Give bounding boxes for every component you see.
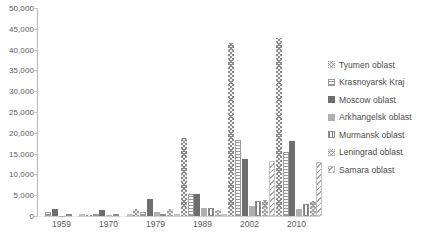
- legend-item-moscow-oblast[interactable]: Moscow oblast: [328, 91, 423, 109]
- x-axis-label-1959: 1959: [38, 219, 85, 229]
- y-axis-tick-mark: [33, 133, 37, 134]
- bar-leningrad-oblast-1989: [215, 210, 221, 216]
- legend-label: Leningrad oblast: [339, 147, 403, 157]
- bar-murmansk-oblast-2010: [303, 204, 309, 216]
- y-axis-tick-label: 30,000: [9, 87, 34, 96]
- bar-murmansk-oblast-1970: [113, 214, 119, 216]
- legend-label: Tyumen oblast: [339, 60, 395, 70]
- y-axis-tick-label: 45,000: [9, 24, 34, 33]
- bar-arkhangelsk-oblast-2002: [249, 206, 255, 216]
- y-axis-tick-mark: [33, 29, 37, 30]
- legend-item-krasnoyarsk-kraj[interactable]: Krasnoyarsk Kraj: [328, 74, 423, 92]
- bar-arkhangelsk-oblast-1989: [201, 208, 207, 216]
- y-axis-tick-label: 10,000: [9, 170, 34, 179]
- x-axis-label-1979: 1979: [132, 219, 179, 229]
- bar-group-2010: [275, 8, 322, 216]
- bar-krasnoyarsk-kraj-1970: [93, 214, 99, 216]
- y-axis-tick-label: 40,000: [9, 45, 34, 54]
- y-axis-tick-label: 5,000: [13, 191, 34, 200]
- x-axis-label-2010: 2010: [273, 219, 320, 229]
- bar-moscow-oblast-1989: [194, 194, 200, 216]
- bar-murmansk-oblast-1959: [66, 214, 72, 216]
- legend-swatch-icon: [328, 96, 335, 103]
- x-axis-labels: 195919701979198920022010: [38, 219, 320, 229]
- legend-item-arkhangelsk-oblast[interactable]: Arkhangelsk oblast: [328, 109, 423, 127]
- legend-item-samara-oblast[interactable]: Samara oblast: [328, 161, 423, 179]
- legend-item-leningrad-oblast[interactable]: Leningrad oblast: [328, 144, 423, 162]
- legend-label: Krasnoyarsk Kraj: [339, 77, 405, 87]
- bar-samara-oblast-2002: [269, 161, 275, 216]
- bar-krasnoyarsk-kraj-1959: [45, 212, 51, 216]
- bar-krasnoyarsk-kraj-2002: [235, 140, 241, 216]
- y-axis-tick-mark: [33, 91, 37, 92]
- legend-swatch-icon: [328, 131, 335, 138]
- bar-arkhangelsk-oblast-1979: [154, 212, 160, 216]
- bar-group-2002: [228, 8, 275, 216]
- bar-leningrad-oblast-2010: [310, 201, 316, 216]
- bar-samara-oblast-1959: [79, 214, 85, 216]
- bar-moscow-oblast-1959: [52, 209, 58, 216]
- y-axis-tick-mark: [33, 154, 37, 155]
- chart-legend: Tyumen oblastKrasnoyarsk KrajMoscow obla…: [328, 56, 423, 179]
- legend-label: Murmansk oblast: [339, 130, 404, 140]
- bar-group-1979: [133, 8, 180, 216]
- bar-leningrad-oblast-2002: [262, 200, 268, 216]
- bar-tyumen-oblast-1989: [181, 138, 187, 216]
- bar-krasnoyarsk-kraj-1979: [140, 212, 146, 216]
- y-axis-tick-mark: [33, 216, 37, 217]
- y-axis-tick-label: 50,000: [9, 4, 34, 13]
- legend-label: Samara oblast: [339, 165, 394, 175]
- bar-murmansk-oblast-1989: [208, 208, 214, 216]
- legend-swatch-icon: [328, 114, 335, 121]
- bar-moscow-oblast-2010: [289, 141, 295, 216]
- bar-krasnoyarsk-kraj-1989: [188, 194, 194, 216]
- bar-arkhangelsk-oblast-1970: [106, 215, 112, 216]
- bar-tyumen-oblast-2002: [228, 43, 234, 216]
- y-axis-tick-mark: [33, 70, 37, 71]
- y-axis-tick-mark: [33, 50, 37, 51]
- x-axis-label-1970: 1970: [85, 219, 132, 229]
- cropped-header-text: [150, 0, 423, 8]
- y-axis-tick-label: 25,000: [9, 108, 34, 117]
- bar-tyumen-oblast-1970: [86, 215, 92, 216]
- y-axis-tick-mark: [33, 8, 37, 9]
- x-axis-line: [37, 216, 320, 217]
- y-axis-tick-mark: [33, 195, 37, 196]
- bar-krasnoyarsk-kraj-2010: [283, 152, 289, 216]
- bar-group-1970: [85, 8, 132, 216]
- legend-item-murmansk-oblast[interactable]: Murmansk oblast: [328, 126, 423, 144]
- chart-root: 05,00010,00015,00020,00025,00030,00035,0…: [0, 0, 423, 238]
- bar-group-1989: [180, 8, 227, 216]
- x-axis-label-2002: 2002: [226, 219, 273, 229]
- legend-swatch-icon: [328, 166, 335, 173]
- bar-murmansk-oblast-2002: [255, 201, 261, 216]
- bar-moscow-oblast-1979: [147, 199, 153, 216]
- y-axis-tick-mark: [33, 174, 37, 175]
- legend-item-tyumen-oblast[interactable]: Tyumen oblast: [328, 56, 423, 74]
- legend-swatch-icon: [328, 149, 335, 156]
- bar-arkhangelsk-oblast-2010: [296, 209, 302, 216]
- y-axis-labels: 05,00010,00015,00020,00025,00030,00035,0…: [0, 0, 34, 238]
- bar-samara-oblast-2010: [316, 162, 322, 216]
- y-axis-tick-mark: [33, 112, 37, 113]
- bar-moscow-oblast-1970: [99, 210, 105, 216]
- legend-label: Arkhangelsk oblast: [339, 112, 412, 122]
- bar-leningrad-oblast-1979: [167, 209, 173, 216]
- bar-samara-oblast-1989: [221, 214, 227, 216]
- bar-murmansk-oblast-1979: [160, 214, 166, 216]
- bar-groups: [38, 8, 320, 216]
- bar-moscow-oblast-2002: [242, 159, 248, 216]
- bar-samara-oblast-1970: [127, 214, 133, 216]
- legend-swatch-icon: [328, 61, 335, 68]
- y-axis-tick-label: 35,000: [9, 66, 34, 75]
- bar-tyumen-oblast-2010: [276, 38, 282, 216]
- y-axis-tick-label: 20,000: [9, 128, 34, 137]
- x-axis-label-1989: 1989: [179, 219, 226, 229]
- bar-group-1959: [38, 8, 85, 216]
- bar-tyumen-oblast-1979: [133, 209, 139, 216]
- bar-samara-oblast-1979: [174, 214, 180, 216]
- legend-swatch-icon: [328, 79, 335, 86]
- legend-label: Moscow oblast: [339, 95, 396, 105]
- y-axis-tick-label: 15,000: [9, 149, 34, 158]
